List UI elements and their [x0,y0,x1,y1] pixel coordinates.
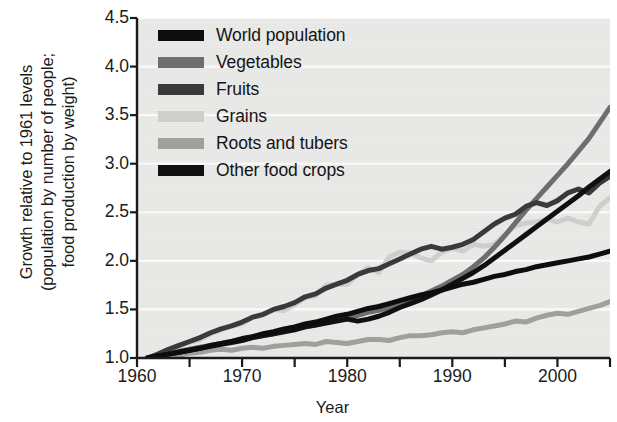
legend-swatch-icon [158,138,204,149]
legend-item-label: Roots and tubers [216,133,348,154]
legend-item: Fruits [158,76,418,103]
legend-item-label: World population [216,25,345,46]
y-axis-title-line-1: Growth relative to 1961 levels [16,53,37,291]
legend-item: Roots and tubers [158,130,418,157]
legend-item-label: Grains [216,106,267,127]
x-axis-tick-label: 2000 [522,366,592,387]
legend-swatch-icon [158,30,204,41]
y-axis-tick-label: 4.5 [87,7,129,28]
y-axis-title: Growth relative to 1961 levels (populati… [15,0,79,362]
legend-item-label: Fruits [216,79,259,100]
legend-item: Other food crops [158,157,418,184]
x-axis-title: Year [0,398,617,417]
legend-swatch-icon [158,111,204,122]
y-axis-tick-label: 2.5 [87,201,129,222]
y-axis-tick-label: 3.0 [87,153,129,174]
chart-figure: Growth relative to 1961 levels (populati… [0,0,617,422]
legend-swatch-icon [158,165,204,176]
y-axis-tick-label: 1.0 [87,347,129,368]
legend-swatch-icon [158,57,204,68]
legend-item: Vegetables [158,49,418,76]
y-axis-tick-label: 1.5 [87,298,129,319]
chart-legend: World populationVegetablesFruitsGrainsRo… [158,22,418,184]
legend-item-label: Other food crops [216,160,345,181]
y-axis-tick-label: 3.5 [87,104,129,125]
x-axis-tick-label: 1990 [417,366,487,387]
x-axis-tick-label: 1960 [102,366,172,387]
x-axis-tick-label: 1970 [207,366,277,387]
x-axis-title-text: Year [316,398,349,416]
legend-swatch-icon [158,84,204,95]
legend-item: Grains [158,103,418,130]
x-axis-tick-label: 1980 [312,366,382,387]
y-axis-tick-label: 4.0 [87,56,129,77]
y-axis-title-line-2: (population by number of people; [37,53,58,291]
y-axis-title-line-3: food production by weight) [58,53,79,291]
y-axis-tick-labels: 1.01.52.02.53.03.54.04.5 [85,0,129,422]
legend-item: World population [158,22,418,49]
y-axis-tick-label: 2.0 [87,250,129,271]
legend-item-label: Vegetables [216,52,302,73]
